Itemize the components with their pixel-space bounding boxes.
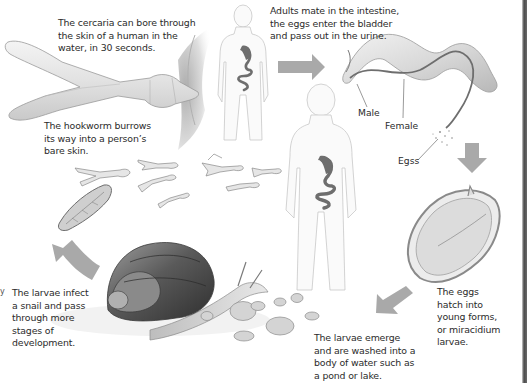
caption-line: development. bbox=[12, 337, 102, 350]
caption-hatch: The eggs hatch into young forms, or mira… bbox=[437, 286, 522, 349]
arrow-up-curved bbox=[52, 240, 100, 280]
arrow-right bbox=[278, 54, 325, 80]
callout-female: Female bbox=[385, 120, 418, 131]
caption-line: through more bbox=[12, 312, 102, 325]
caption-line: Adults mate in the intestine, bbox=[270, 5, 430, 18]
caption-hookworm: The hookworm burrows its way into a pers… bbox=[44, 120, 184, 158]
arrow-down bbox=[457, 143, 487, 173]
caption-line: and are washed into a bbox=[314, 345, 439, 358]
caption-line: The eggs bbox=[437, 286, 522, 299]
edge-mark: y bbox=[0, 286, 5, 297]
life-cycle-diagram: The cercaria can bore through the skin o… bbox=[0, 0, 527, 383]
callout-eggs: Egss bbox=[398, 155, 419, 166]
caption-line: stages of bbox=[12, 325, 102, 338]
caption-line: or miracidium bbox=[437, 324, 522, 337]
caption-line: a snail and pass bbox=[12, 300, 102, 313]
caption-line: water, in 30 seconds. bbox=[58, 42, 218, 55]
egg-illustration bbox=[408, 186, 500, 282]
caption-line: its way into a person’s bbox=[44, 133, 184, 146]
caption-line: body of water such as bbox=[314, 357, 439, 370]
arrow-down-left bbox=[376, 286, 413, 314]
adult-worms-illustration bbox=[343, 34, 497, 160]
caption-line: The larvae emerge bbox=[314, 332, 439, 345]
right-page-border bbox=[522, 0, 527, 383]
caption-line: the eggs enter the bladder bbox=[270, 18, 430, 31]
caption-line: hatch into bbox=[437, 299, 522, 312]
human-figure-bottom bbox=[286, 84, 356, 290]
caption-emerge: The larvae emerge and are washed into a … bbox=[314, 332, 439, 382]
human-figure-top bbox=[218, 5, 268, 140]
caption-line: a pond or lake. bbox=[314, 370, 439, 383]
caption-adults: Adults mate in the intestine, the eggs e… bbox=[270, 5, 430, 43]
caption-cercaria: The cercaria can bore through the skin o… bbox=[58, 17, 218, 55]
caption-line: The hookworm burrows bbox=[44, 120, 184, 133]
caption-line: and pass out in the urine. bbox=[270, 30, 430, 43]
caption-line: The cercaria can bore through bbox=[58, 17, 218, 30]
caption-line: The larvae infect bbox=[12, 287, 102, 300]
caption-line: larvae. bbox=[437, 336, 522, 349]
caption-line: young forms, bbox=[437, 311, 522, 324]
caption-line: bare skin. bbox=[44, 145, 184, 158]
hookworm-larva-illustration bbox=[58, 185, 111, 231]
callout-male: Male bbox=[358, 107, 380, 118]
caption-snail: The larvae infect a snail and pass throu… bbox=[12, 287, 102, 350]
caption-line: the skin of a human in the bbox=[58, 30, 218, 43]
